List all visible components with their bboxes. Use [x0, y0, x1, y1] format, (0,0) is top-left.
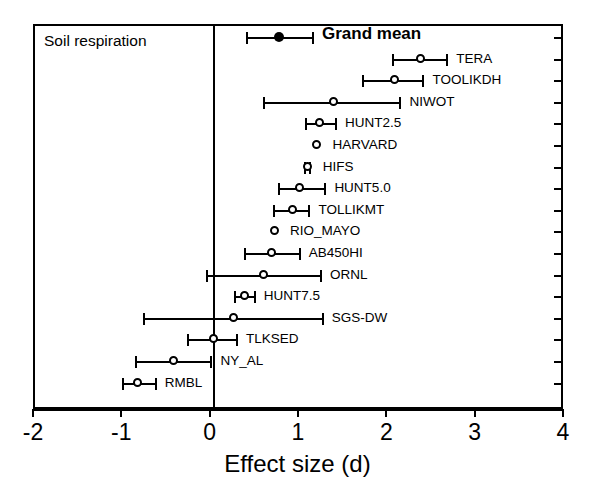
- forest-row[interactable]: HIFS: [0, 158, 595, 178]
- row-edge-tick: [554, 318, 563, 320]
- x-axis-tick-label: 2: [380, 419, 393, 445]
- forest-row[interactable]: AB450HI: [0, 244, 595, 264]
- ci-cap-upper: [399, 97, 401, 109]
- ci-cap-upper: [210, 356, 212, 368]
- ci-cap-lower: [135, 356, 137, 368]
- grand-mean-marker[interactable]: [274, 32, 284, 42]
- series-label: RMBL: [165, 375, 203, 391]
- series-label: TERA: [456, 51, 492, 67]
- forest-row[interactable]: RMBL: [0, 374, 595, 394]
- series-label: HUNT5.0: [334, 180, 390, 196]
- study-mean-marker[interactable]: [312, 140, 321, 149]
- forest-row[interactable]: SGS-DW: [0, 309, 595, 329]
- row-edge-tick: [554, 167, 563, 169]
- series-label: NY_AL: [220, 353, 263, 369]
- series-label: RIO_MAYO: [290, 223, 360, 239]
- row-edge-tick: [554, 231, 563, 233]
- study-mean-marker[interactable]: [240, 291, 249, 300]
- study-mean-marker[interactable]: [295, 183, 304, 192]
- ci-cap-lower: [234, 291, 236, 303]
- study-mean-marker[interactable]: [315, 118, 324, 127]
- ci-cap-upper: [308, 205, 310, 217]
- ci-cap-lower: [305, 118, 307, 130]
- forest-row[interactable]: ORNL: [0, 266, 595, 286]
- x-axis-title: Effect size (d): [0, 450, 595, 478]
- ci-cap-upper: [335, 118, 337, 130]
- ci-cap-lower: [244, 248, 246, 260]
- series-label: ORNL: [330, 267, 368, 283]
- x-axis-tick-label: -2: [23, 419, 43, 445]
- row-edge-tick: [554, 275, 563, 277]
- forest-row[interactable]: TLKSED: [0, 330, 595, 350]
- ci-cap-lower: [263, 97, 265, 109]
- series-label: HUNT7.5: [264, 288, 320, 304]
- ci-cap-upper: [324, 183, 326, 195]
- x-axis-tick-label: 4: [557, 419, 570, 445]
- x-axis-tick: [32, 409, 34, 417]
- row-edge-tick: [554, 383, 563, 385]
- ci-cap-lower: [122, 378, 124, 390]
- ci-cap-lower: [392, 54, 394, 66]
- row-edge-tick: [554, 123, 563, 125]
- forest-row[interactable]: RIO_MAYO: [0, 222, 595, 242]
- forest-row[interactable]: HUNT7.5: [0, 287, 595, 307]
- series-label: TLKSED: [246, 331, 299, 347]
- series-label: Grand mean: [322, 26, 421, 42]
- forest-row[interactable]: TOLLIKMT: [0, 201, 595, 221]
- ci-cap-upper: [320, 270, 322, 282]
- ci-cap-lower: [206, 270, 208, 282]
- ci-cap-lower: [246, 32, 248, 44]
- row-edge-tick: [554, 339, 563, 341]
- series-label: HIFS: [323, 159, 354, 175]
- ci-cap-upper: [312, 32, 314, 44]
- forest-row[interactable]: HUNT5.0: [0, 179, 595, 199]
- study-mean-marker[interactable]: [133, 378, 142, 387]
- row-edge-tick: [554, 296, 563, 298]
- ci-cap-lower: [273, 205, 275, 217]
- study-mean-marker[interactable]: [288, 205, 297, 214]
- forest-row[interactable]: TOOLIKDH: [0, 71, 595, 91]
- row-edge-tick: [554, 210, 563, 212]
- row-edge-tick: [554, 253, 563, 255]
- ci-cap-lower: [278, 183, 280, 195]
- study-mean-marker[interactable]: [416, 54, 425, 63]
- forest-row[interactable]: HUNT2.5: [0, 114, 595, 134]
- ci-cap-upper: [254, 291, 256, 303]
- forest-row[interactable]: TERA: [0, 50, 595, 70]
- ci-cap-upper: [446, 54, 448, 66]
- series-label: TOOLIKDH: [432, 72, 501, 88]
- series-label: HARVARD: [332, 137, 397, 153]
- study-mean-marker[interactable]: [390, 75, 399, 84]
- x-axis-tick: [120, 409, 122, 417]
- ci-cap-lower: [143, 313, 145, 325]
- forest-row[interactable]: HARVARD: [0, 136, 595, 156]
- ci-cap-upper: [422, 75, 424, 87]
- row-edge-tick: [554, 188, 563, 190]
- x-axis-tick: [474, 409, 476, 417]
- row-edge-tick: [554, 80, 563, 82]
- ci-cap-upper: [322, 313, 324, 325]
- forest-row[interactable]: NY_AL: [0, 352, 595, 372]
- row-edge-tick: [554, 59, 563, 61]
- forest-row[interactable]: NIWOT: [0, 93, 595, 113]
- x-axis-tick: [297, 409, 299, 417]
- x-axis-tick: [385, 409, 387, 417]
- study-mean-marker[interactable]: [303, 162, 312, 171]
- series-label: HUNT2.5: [345, 115, 401, 131]
- study-mean-marker[interactable]: [209, 334, 218, 343]
- study-mean-marker[interactable]: [169, 356, 178, 365]
- study-mean-marker[interactable]: [270, 226, 279, 235]
- x-axis-tick: [562, 409, 564, 417]
- row-edge-tick: [554, 37, 563, 39]
- study-mean-marker[interactable]: [229, 313, 238, 322]
- ci-cap-upper: [299, 248, 301, 260]
- forest-row[interactable]: Grand mean: [0, 28, 595, 48]
- x-axis-tick-label: 0: [203, 419, 216, 445]
- series-label: AB450HI: [309, 245, 363, 261]
- study-mean-marker[interactable]: [267, 248, 276, 257]
- x-axis-tick-label: 3: [468, 419, 481, 445]
- ci-cap-lower: [187, 334, 189, 346]
- study-mean-marker[interactable]: [259, 270, 268, 279]
- forest-plot-figure: Soil respiration Grand meanTERATOOLIKDHN…: [0, 0, 595, 486]
- study-mean-marker[interactable]: [329, 97, 338, 106]
